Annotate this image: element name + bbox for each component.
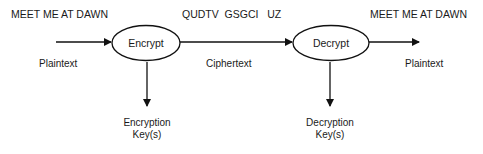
encryption-diagram: MEET ME AT DAWN QUDTV GSGCI UZ MEET ME A…: [0, 0, 483, 154]
plaintext-output-label: Plaintext: [405, 58, 443, 70]
encryption-key-label-line1: Encryption: [123, 117, 170, 129]
decryption-key-label-line2: Key(s): [316, 129, 345, 141]
plaintext-input-message: MEET ME AT DAWN: [11, 8, 108, 20]
decryption-key-label-line1: Decryption: [306, 117, 354, 129]
ciphertext-message: QUDTV GSGCI UZ: [182, 8, 281, 20]
ciphertext-label: Ciphertext: [206, 58, 252, 70]
encrypt-node-label: Encrypt: [128, 37, 164, 49]
plaintext-output-message: MEET ME AT DAWN: [370, 8, 467, 20]
diagram-shapes: [0, 0, 483, 154]
encryption-key-label-line2: Key(s): [133, 129, 162, 141]
decrypt-node-label: Decrypt: [313, 37, 349, 49]
plaintext-input-label: Plaintext: [39, 58, 77, 70]
